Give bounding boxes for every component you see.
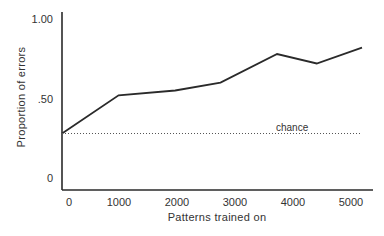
errors-line [62, 48, 362, 134]
x-tick-labels: 010002000300040005000 [66, 196, 363, 208]
y-tick-label: .50 [38, 93, 53, 105]
x-tick-label: 4000 [281, 196, 305, 208]
x-tick-label: 2000 [165, 196, 189, 208]
chance-annotation: chance [276, 122, 309, 133]
y-tick-label: 0 [47, 172, 53, 184]
y-tick-label: 1.00 [32, 13, 53, 25]
x-tick-label: 3000 [223, 196, 247, 208]
x-tick-label: 0 [66, 196, 72, 208]
x-tick-label: 1000 [107, 196, 131, 208]
y-tick-labels: 0.501.00 [32, 13, 53, 184]
x-axis-label: Patterns trained on [168, 211, 267, 223]
x-tick-label: 5000 [339, 196, 363, 208]
y-axis-label: Proportion of errors [15, 46, 27, 147]
line-chart: 0.501.00 010002000300040005000 chance Pa… [0, 0, 384, 236]
data-series [62, 48, 362, 134]
